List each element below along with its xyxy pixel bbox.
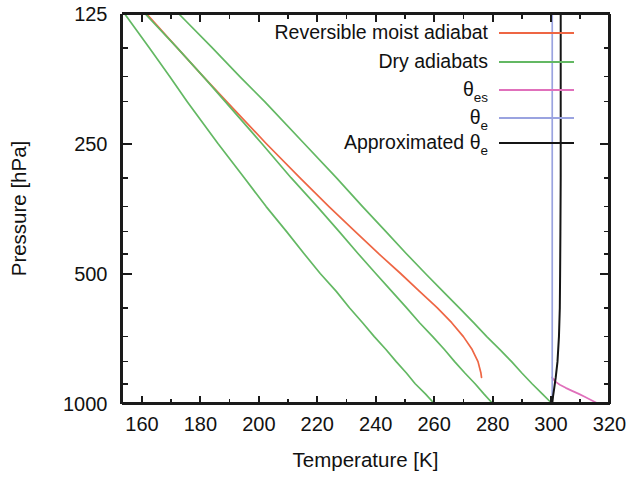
legend-label-1: Dry adiabats: [379, 50, 489, 72]
y-tick-label-250: 250: [74, 133, 107, 155]
legend: Reversible moist adiabatDry adiabatsθesθ…: [274, 21, 574, 158]
series-dry-adiabat-hot: [178, 14, 551, 404]
x-tick-label-300: 300: [534, 413, 567, 435]
x-tick-label-200: 200: [242, 413, 275, 435]
x-tick-label-220: 220: [301, 413, 334, 435]
y-tick-label-500: 500: [74, 263, 107, 285]
y-tick-label-1000: 1000: [63, 393, 108, 415]
legend-entry-2: θes: [463, 78, 574, 105]
x-tick-label-240: 240: [359, 413, 392, 435]
x-tick-label-260: 260: [417, 413, 450, 435]
legend-entry-1: Dry adiabats: [379, 50, 574, 72]
legend-entry-0: Reversible moist adiabat: [274, 21, 574, 43]
legend-label-subscript-3: e: [480, 118, 488, 133]
legend-label-0: Reversible moist adiabat: [274, 21, 488, 43]
chart-canvas: 1601802002202402602803003201252505001000…: [0, 0, 627, 478]
series-dry-adiabat-cold: [124, 14, 434, 404]
legend-entry-3: θe: [470, 106, 574, 133]
y-tick-label-125: 125: [74, 3, 107, 25]
figure-root: 1601802002202402602803003201252505001000…: [0, 0, 627, 478]
legend-label-subscript-4: e: [480, 143, 488, 158]
x-tick-label-280: 280: [476, 413, 509, 435]
legend-label-4: Approximated θe: [344, 131, 488, 158]
series-approximated-theta-e: [552, 14, 560, 404]
legend-label-2: θes: [463, 78, 488, 105]
series-theta-es: [552, 377, 598, 403]
legend-entry-4: Approximated θe: [344, 131, 574, 158]
x-tick-label-180: 180: [184, 413, 217, 435]
series-layer: [124, 14, 597, 404]
y-axis-title: Pressure [hPa]: [7, 141, 30, 277]
series-dry-adiabat-warm: [145, 14, 493, 404]
x-tick-label-320: 320: [593, 413, 626, 435]
legend-label-3: θe: [470, 106, 488, 133]
x-axis-title: Temperature [K]: [293, 448, 439, 471]
x-tick-label-160: 160: [125, 413, 158, 435]
legend-label-subscript-2: es: [474, 90, 489, 105]
